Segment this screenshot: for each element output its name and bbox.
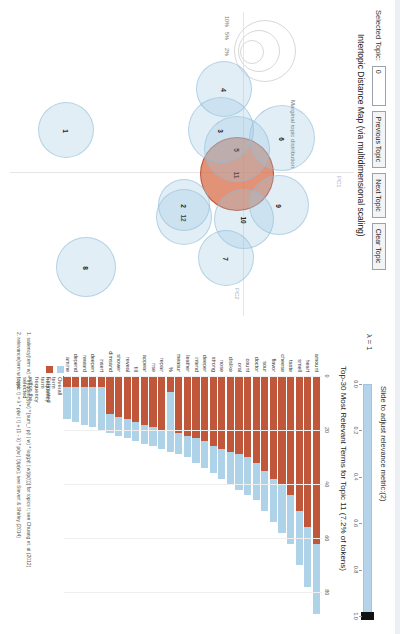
bar-row[interactable] — [106, 376, 113, 614]
bar-term-label[interactable]: nose — [219, 330, 225, 372]
bar-term-label[interactable]: insert — [99, 330, 105, 372]
bar-row[interactable] — [63, 376, 70, 614]
bar-term-label[interactable]: shower — [116, 330, 122, 372]
bar-topic-frequency — [132, 376, 139, 422]
bar-term-label[interactable]: repair — [159, 330, 165, 372]
topic-bubble-4[interactable]: 4 — [196, 61, 252, 117]
bar-term-label[interactable]: deeper — [202, 330, 208, 372]
bar-term-label[interactable]: amount — [314, 330, 320, 372]
bar-row[interactable] — [132, 376, 139, 614]
bar-term-label[interactable]: sour — [262, 330, 268, 372]
ldavis-page: Selected Topic: 0 Previous Topic Next To… — [0, 0, 400, 634]
bar-row[interactable] — [175, 376, 182, 614]
bar-term-label[interactable]: smell — [296, 330, 302, 372]
bar-topic-frequency — [89, 376, 96, 387]
bar-row[interactable] — [296, 376, 303, 614]
bar-term-label[interactable]: taste — [288, 330, 294, 372]
bar-term-label[interactable]: dislike — [228, 330, 234, 372]
topic-bubble-2[interactable]: 2 — [158, 179, 210, 231]
bar-term-label[interactable]: depend — [73, 330, 79, 372]
bar-row[interactable] — [149, 376, 156, 614]
bar-topic-frequency — [81, 376, 88, 387]
bar-row[interactable] — [115, 376, 122, 614]
bar-topic-frequency — [287, 376, 294, 495]
legend-pct-2: 2% — [224, 48, 230, 56]
bar-row[interactable] — [244, 376, 251, 614]
bar-row[interactable] — [227, 376, 234, 614]
topic-controls: Selected Topic: 0 Previous Topic Next To… — [368, 10, 390, 270]
bar-row[interactable] — [235, 376, 242, 614]
bar-row[interactable] — [287, 376, 294, 614]
bar-row[interactable] — [158, 376, 165, 614]
bar-term-label[interactable]: count — [245, 330, 251, 372]
bar-row[interactable] — [141, 376, 148, 614]
legend-pct-10: 10% — [224, 16, 230, 27]
relevance-slider-handle[interactable] — [361, 612, 374, 620]
bar-row[interactable] — [253, 376, 260, 614]
bar-topic-frequency — [261, 376, 268, 471]
bar-row[interactable] — [124, 376, 131, 614]
bar-term-label[interactable]: appear — [142, 330, 148, 372]
barchart-plot-area[interactable]: amountheartsmelltastecheeseflavorsourdoc… — [68, 330, 336, 626]
topic-bubble-label: 9 — [275, 204, 282, 208]
bar-row[interactable] — [313, 376, 320, 614]
slider-tick — [359, 523, 362, 524]
bar-row[interactable] — [261, 376, 268, 614]
bar-term-label[interactable]: dimsand — [107, 330, 113, 372]
bar-row[interactable] — [167, 376, 174, 614]
bar-term-label[interactable]: heart — [305, 330, 311, 372]
topic-bubble-8[interactable]: 8 — [56, 237, 116, 297]
bar-topic-frequency — [149, 376, 156, 427]
bar-row[interactable] — [218, 376, 225, 614]
bar-row[interactable] — [201, 376, 208, 614]
next-topic-button[interactable]: Next Topic — [372, 173, 386, 218]
lambda-value-label: λ = 1 — [365, 334, 374, 350]
bar-topic-frequency — [296, 376, 303, 511]
bar-term-label[interactable]: intend — [193, 330, 199, 372]
topic-bubble-1[interactable]: 1 — [38, 102, 94, 158]
bar-term-label[interactable]: deepen — [90, 330, 96, 372]
previous-topic-button[interactable]: Previous Topic — [372, 111, 386, 168]
bar-term-label[interactable]: reveal — [124, 330, 130, 372]
bar-topic-frequency — [124, 376, 131, 419]
relevance-slider[interactable] — [363, 384, 372, 616]
bar-row[interactable] — [72, 376, 79, 614]
bar-term-label[interactable]: leather — [185, 330, 191, 372]
bar-term-label[interactable]: rise — [150, 330, 156, 372]
bar-term-label[interactable]: oral — [236, 330, 242, 372]
bar-term-label[interactable]: measur — [176, 330, 182, 372]
bar-term-label[interactable]: reward — [81, 330, 87, 372]
selected-topic-label: Selected Topic: — [375, 10, 384, 61]
bar-row[interactable] — [304, 376, 311, 614]
slider-tick-label: 0.2 — [353, 427, 359, 435]
slider-tick-label: 0.6 — [353, 519, 359, 527]
bar-topic-frequency — [158, 376, 165, 430]
pc1-axis-tag: PC1 — [336, 176, 342, 188]
bar-term-label[interactable]: cheese — [279, 330, 285, 372]
bar-row[interactable] — [89, 376, 96, 614]
bar-row[interactable] — [81, 376, 88, 614]
bar-row[interactable] — [278, 376, 285, 614]
bar-term-label[interactable]: amine — [64, 330, 70, 372]
bar-term-label[interactable]: doctor — [253, 330, 259, 372]
bar-topic-frequency — [244, 376, 251, 457]
bar-row[interactable] — [192, 376, 199, 614]
topic-bubble-7[interactable]: 7 — [198, 230, 254, 286]
bar-term-label[interactable]: fill — [133, 330, 139, 372]
map-plot-area[interactable]: PC1 PC2 2% 5% 10% Marginal topic distrib… — [10, 12, 354, 316]
bar-row[interactable] — [210, 376, 217, 614]
bar-row[interactable] — [98, 376, 105, 614]
bar-topic-frequency — [184, 376, 191, 436]
bar-topic-frequency — [210, 376, 217, 446]
barchart-x-tick-label: 20 — [324, 427, 330, 433]
legend-pct-5: 5% — [224, 32, 230, 40]
bar-topic-frequency — [115, 376, 122, 417]
selected-topic-input[interactable]: 0 — [372, 66, 386, 106]
bar-term-label[interactable]: flavor — [271, 330, 277, 372]
bar-term-label[interactable]: strong — [210, 330, 216, 372]
bar-row[interactable] — [270, 376, 277, 614]
slider-tick — [359, 384, 362, 385]
bar-term-label[interactable]: % — [167, 330, 173, 372]
bar-row[interactable] — [184, 376, 191, 614]
clear-topic-button[interactable]: Clear Topic — [372, 223, 386, 270]
